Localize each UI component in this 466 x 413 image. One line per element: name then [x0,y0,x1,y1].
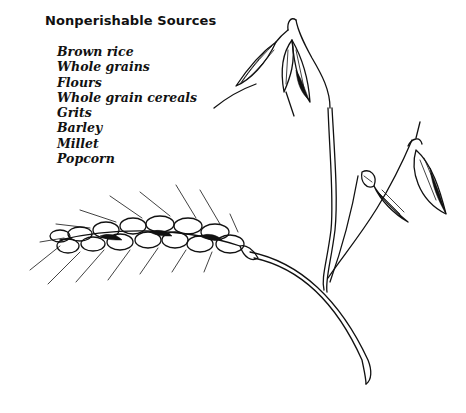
oat-plant-icon [214,19,446,292]
wheat-ear-icon [30,185,371,384]
grain-illustrations [0,0,466,413]
